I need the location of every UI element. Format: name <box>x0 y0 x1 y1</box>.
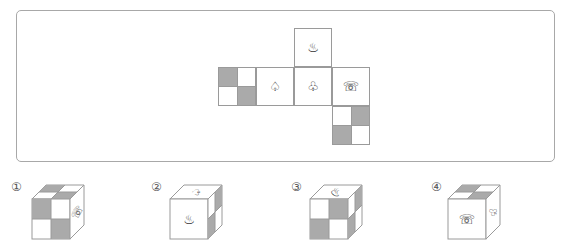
net-face-telephone: ☏ <box>332 67 370 106</box>
net-face-hot-spring: ♨ <box>294 28 332 67</box>
spade-icon: ♤ <box>190 187 203 197</box>
net-face-checker-left <box>218 67 256 106</box>
hot-spring-icon: ♨ <box>295 29 331 66</box>
club-icon: ♧ <box>295 68 331 105</box>
option-cube-1[interactable]: ☏ <box>0 170 100 240</box>
net-face-spade: ♤ <box>256 67 294 106</box>
hot-spring-icon: ♨ <box>183 212 195 227</box>
telephone-icon: ☏ <box>459 212 475 227</box>
net-face-checker-bottom <box>332 106 370 145</box>
net-face-club: ♧ <box>294 67 332 106</box>
option-cube-4[interactable]: ☏ ♧ <box>420 170 520 240</box>
telephone-icon: ☏ <box>333 68 369 105</box>
option-cube-2[interactable]: ♤ ♨ <box>140 170 240 240</box>
checker-grid-lines <box>333 107 371 146</box>
checker-grid-lines <box>219 68 257 107</box>
option-cube-3[interactable]: ♨ <box>280 170 380 240</box>
spade-icon: ♤ <box>257 68 293 105</box>
